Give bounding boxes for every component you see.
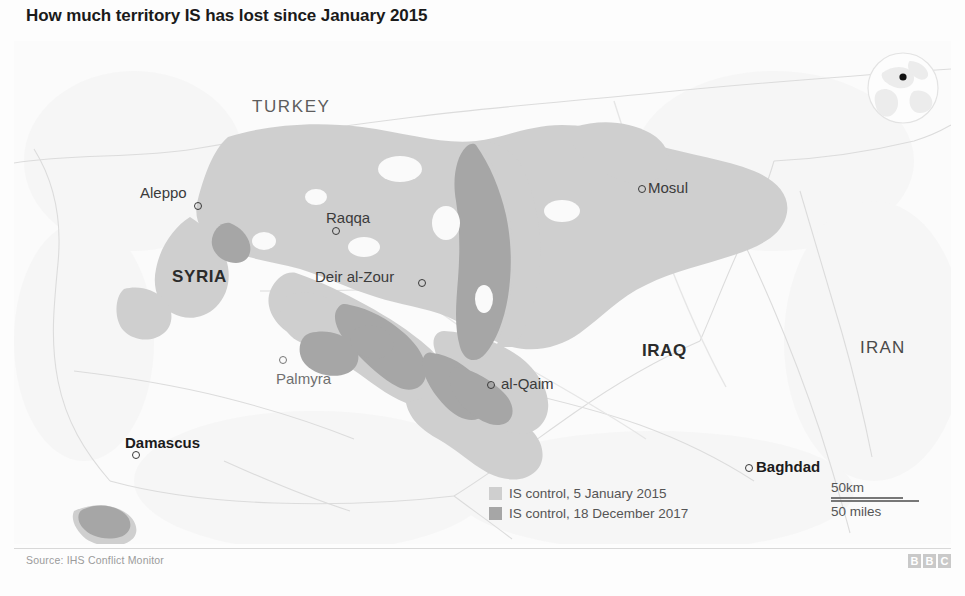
legend: IS control, 5 January 2015 IS control, 1… [489, 483, 688, 523]
source-credit: Source: IHS Conflict Monitor [26, 554, 164, 566]
city-dot-baghdad [745, 464, 753, 472]
globe-locator-icon [862, 47, 944, 129]
legend-item-2017: IS control, 18 December 2017 [489, 503, 688, 523]
legend-label-2015: IS control, 5 January 2015 [509, 486, 667, 501]
city-dot-al-qaim [487, 381, 495, 389]
bbc-logo: B B C [908, 554, 951, 568]
city-dot-aleppo [194, 202, 202, 210]
legend-item-2015: IS control, 5 January 2015 [489, 483, 688, 503]
scale-label-km: 50km [831, 480, 931, 496]
city-dot-deir-al-zour [418, 279, 426, 287]
map-graphic [14, 41, 951, 544]
legend-label-2017: IS control, 18 December 2017 [509, 506, 688, 521]
bbc-logo-letter-2: B [923, 554, 936, 568]
legend-swatch-2015 [489, 487, 502, 500]
city-dot-mosul [638, 185, 646, 193]
city-dot-palmyra [279, 356, 287, 364]
scale-rule-miles [831, 500, 919, 502]
scale-rule-km [831, 497, 903, 499]
legend-swatch-2017 [489, 507, 502, 520]
scale-label-miles: 50 miles [831, 503, 931, 521]
bbc-logo-letter-1: B [908, 554, 921, 568]
bbc-logo-letter-3: C [938, 554, 951, 568]
city-dot-damascus [132, 451, 140, 459]
footer-divider [14, 548, 951, 549]
city-dot-raqqa [332, 227, 340, 235]
map-canvas[interactable]: TURKEY SYRIA IRAQ IRAN JORDAN Aleppo Raq… [14, 41, 951, 544]
map-figure: How much territory IS has lost since Jan… [0, 0, 965, 596]
page-title: How much territory IS has lost since Jan… [26, 6, 427, 26]
scale-bar: 50km 50 miles [831, 480, 931, 521]
